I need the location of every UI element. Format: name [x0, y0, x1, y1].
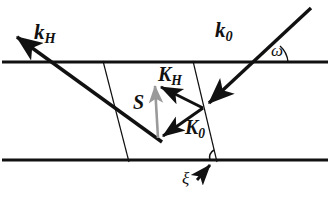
label-k-0-sub: 0 [226, 28, 233, 44]
label-S-base: S [133, 91, 144, 113]
label-k-0: k0 [215, 20, 233, 44]
label-k-0-base: k [215, 18, 226, 42]
label-omega: ω [271, 42, 283, 59]
label-xi-base: ξ [182, 169, 189, 188]
xi-pointer-arrow [197, 165, 210, 180]
diffracted-beam-kH [17, 37, 162, 142]
label-k-H: kH [34, 22, 56, 46]
label-S: S [133, 92, 144, 112]
label-K-H: KH [158, 64, 182, 88]
label-xi: ξ [182, 170, 189, 187]
label-omega-base: ω [271, 41, 283, 60]
vector-KH [161, 87, 203, 108]
label-K-H-sub: H [171, 73, 182, 88]
lattice-plane-left [103, 61, 129, 162]
label-k-H-sub: H [45, 30, 56, 46]
diffraction-diagram: kH k0 KH K0 S ω ξ [0, 0, 330, 203]
label-K-0-sub: 0 [198, 126, 205, 141]
vector-S [155, 86, 158, 138]
label-K-0-base: K [185, 116, 198, 138]
label-K-0: K0 [185, 117, 205, 141]
label-k-H-base: k [34, 20, 45, 44]
label-K-H-base: K [158, 63, 171, 85]
